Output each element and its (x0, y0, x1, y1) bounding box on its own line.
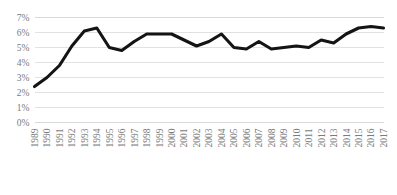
x-tick-label: 1999 (155, 128, 165, 147)
x-tick-label: 1989 (30, 128, 40, 147)
x-tick-label: 2014 (342, 128, 352, 147)
x-tick-label: 2017 (379, 128, 389, 147)
x-tick-label: 1997 (130, 128, 140, 147)
x-tick-label: 1992 (67, 128, 77, 147)
x-tick-label: 2000 (167, 128, 177, 147)
y-tick-label: 5% (17, 43, 30, 53)
y-tick-label: 3% (17, 73, 30, 83)
x-tick-label: 1996 (117, 128, 127, 147)
x-tick-label: 2013 (329, 128, 339, 147)
y-tick-label: 7% (17, 13, 30, 23)
x-tick-label: 2009 (279, 128, 289, 147)
x-tick-label: 2004 (217, 128, 227, 147)
y-tick-label: 1% (17, 103, 30, 113)
x-tick-label: 2012 (317, 128, 327, 147)
y-tick-label: 4% (17, 58, 30, 68)
x-tick-label: 2003 (204, 128, 214, 147)
x-tick-label: 1995 (105, 128, 115, 147)
gridlines (35, 18, 384, 123)
x-tick-label: 1993 (80, 128, 90, 147)
x-tick-label: 2001 (179, 128, 189, 147)
x-tick-label: 2002 (192, 128, 202, 147)
x-tick-label: 2011 (304, 128, 314, 147)
chart-canvas: 0%1%2%3%4%5%6%7% 19891990199119921993199… (0, 0, 397, 195)
y-tick-label: 2% (17, 88, 30, 98)
x-tick-label: 2015 (354, 128, 364, 147)
x-tick-label: 1998 (142, 128, 152, 147)
y-tick-label: 0% (17, 118, 30, 128)
x-tick-label: 1991 (55, 128, 65, 147)
y-axis-tick-labels: 0%1%2%3%4%5%6%7% (17, 13, 30, 128)
x-tick-label: 2016 (366, 128, 376, 147)
x-tick-label: 2007 (254, 128, 264, 147)
x-tick-label: 2010 (292, 128, 302, 147)
x-tick-label: 2008 (267, 128, 277, 147)
x-tick-label: 2005 (229, 128, 239, 147)
x-tick-label: 1990 (42, 128, 52, 147)
y-tick-label: 6% (17, 28, 30, 38)
x-tick-label: 1994 (92, 128, 102, 147)
x-axis-tick-labels: 1989199019911992199319941995199619971998… (30, 128, 389, 147)
x-tick-label: 2006 (242, 128, 252, 147)
line-chart: 0%1%2%3%4%5%6%7% 19891990199119921993199… (0, 0, 397, 195)
